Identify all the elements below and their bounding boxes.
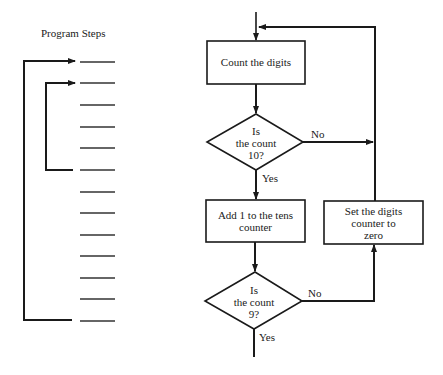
- outer-loop-arrow: [24, 61, 75, 320]
- d1-line2: the count: [216, 137, 296, 149]
- program-steps-title: Program Steps: [41, 27, 105, 39]
- d2-line3: 9?: [214, 308, 294, 320]
- d1-yes-label: Yes: [262, 172, 278, 184]
- d1-line3: 10?: [216, 149, 296, 161]
- is-count-9-label: Is the count 9?: [214, 284, 294, 320]
- add-tens-label: Add 1 to the tens counter: [206, 209, 305, 233]
- reset-digits-label: Set the digits counter to zero: [324, 205, 423, 241]
- program-step-lines: [80, 62, 115, 321]
- inner-loop-arrow: [46, 83, 75, 170]
- add-tens-line2: counter: [206, 221, 305, 233]
- d1-line1: Is: [216, 125, 296, 137]
- count-digits-label: Count the digits: [207, 56, 305, 68]
- is-count-10-label: Is the count 10?: [216, 125, 296, 161]
- d1-no-label: No: [311, 128, 324, 140]
- count-digits-text: Count the digits: [221, 56, 291, 68]
- d2-line2: the count: [214, 296, 294, 308]
- reset-line3: zero: [324, 229, 423, 241]
- reset-line2: counter to: [324, 217, 423, 229]
- d2-line1: Is: [214, 284, 294, 296]
- d2-yes-label: Yes: [259, 331, 275, 343]
- add-tens-line1: Add 1 to the tens: [206, 209, 305, 221]
- reset-line1: Set the digits: [324, 205, 423, 217]
- d2-no-label: No: [308, 287, 321, 299]
